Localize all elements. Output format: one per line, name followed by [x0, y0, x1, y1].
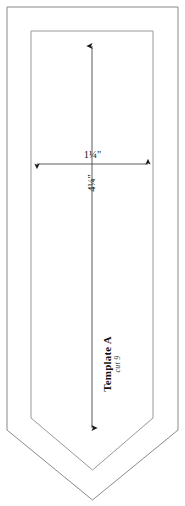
template-name-label: Template A — [102, 336, 113, 392]
pattern-drawing — [0, 0, 185, 506]
cutting-line-outline — [7, 7, 178, 500]
pattern-template-canvas: 1¼" 4¼" Template A cut 9 — [0, 0, 185, 506]
length-dimension-label: 4¼" — [87, 174, 98, 192]
template-title-block: Template A cut 9 — [102, 336, 122, 392]
width-dimension-label: 1¼" — [0, 150, 185, 161]
cut-count-label: cut 9 — [114, 336, 122, 392]
